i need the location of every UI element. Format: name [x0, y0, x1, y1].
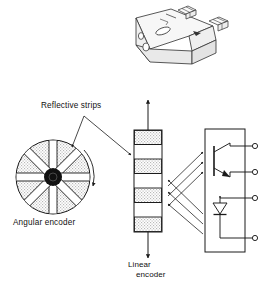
- linear-encoder-strip: [134, 100, 162, 258]
- angular-encoder-disc: [16, 140, 94, 214]
- linear-encoder-label-line1: Linear: [128, 260, 151, 269]
- disc-hub: [44, 168, 62, 186]
- reflective-strips-label: Reflective strips: [41, 101, 101, 110]
- angular-encoder-label: Angular encoder: [13, 218, 75, 227]
- port-hole-icon: [143, 43, 149, 51]
- package-terminals: [252, 143, 257, 240]
- reflective-strips-leaders: [72, 116, 131, 155]
- sensor-housing-3d: [136, 6, 228, 64]
- port-hole-icon: [138, 33, 143, 40]
- encoder-figure: Reflective strips Angular encoder Linear…: [0, 0, 267, 281]
- light-beam-arrows: [168, 152, 203, 234]
- linear-encoder-label-line2: encoder: [136, 270, 166, 279]
- detector-package: [205, 129, 258, 252]
- figure-canvas: Reflective strips Angular encoder Linear…: [0, 0, 267, 281]
